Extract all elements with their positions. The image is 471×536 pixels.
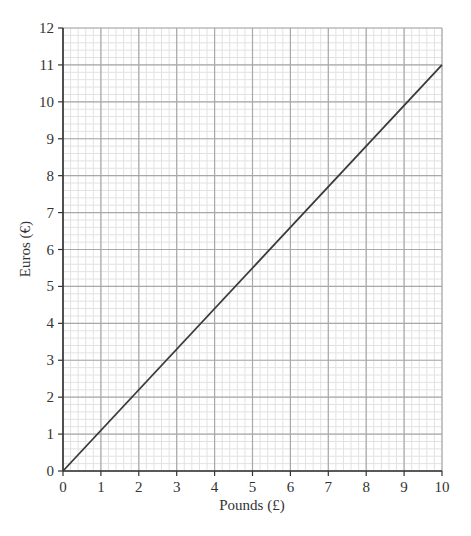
y-tick-label: 7: [47, 205, 55, 221]
y-tick-label: 12: [39, 20, 54, 36]
y-tick-label: 2: [47, 389, 55, 405]
x-axis-ticks: 012345678910: [59, 471, 449, 495]
x-tick-label: 1: [97, 479, 105, 495]
y-tick-label: 4: [47, 315, 55, 331]
x-tick-label: 9: [400, 479, 408, 495]
y-tick-label: 1: [47, 426, 55, 442]
y-tick-label: 9: [47, 131, 55, 147]
y-tick-label: 6: [47, 242, 55, 258]
y-tick-label: 5: [47, 278, 55, 294]
y-tick-label: 3: [47, 352, 55, 368]
x-axis-title: Pounds (£): [219, 497, 284, 514]
y-tick-label: 8: [47, 168, 55, 184]
x-tick-label: 5: [249, 479, 257, 495]
y-axis-ticks: 0123456789101112: [39, 20, 63, 479]
x-tick-label: 2: [135, 479, 143, 495]
conversion-graph: 012345678910 0123456789101112 Pounds (£)…: [0, 0, 471, 536]
y-axis-title: Euros (€): [17, 221, 34, 277]
x-tick-label: 3: [173, 479, 181, 495]
y-tick-label: 11: [40, 57, 54, 73]
x-tick-label: 6: [287, 479, 295, 495]
x-tick-label: 7: [325, 479, 333, 495]
x-tick-label: 10: [435, 479, 450, 495]
y-tick-label: 10: [39, 94, 54, 110]
x-tick-label: 0: [59, 479, 67, 495]
x-tick-label: 8: [362, 479, 370, 495]
y-tick-label: 0: [47, 463, 55, 479]
x-tick-label: 4: [211, 479, 219, 495]
